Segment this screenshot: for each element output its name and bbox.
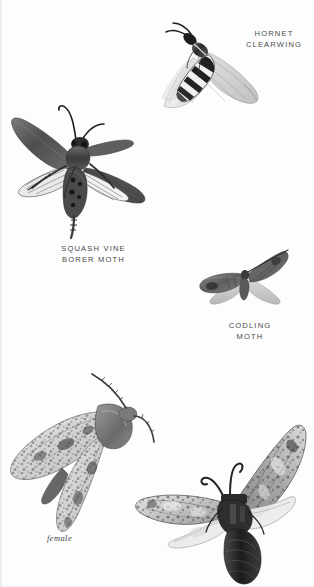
leopard-male-abdomen xyxy=(224,529,261,584)
specimen-squash-vine-borer-moth xyxy=(4,96,156,242)
caption-codling-moth: CODLING MOTH xyxy=(207,321,293,342)
illustration-plate: HORNET CLEARWING xyxy=(0,0,314,587)
svb-thorax xyxy=(66,137,90,170)
svb-abdomen xyxy=(63,167,87,218)
caption-squash-vine-borer-moth: SQUASH VINE BORER MOTH xyxy=(41,244,146,265)
codling-body xyxy=(240,270,249,300)
svb-antennae xyxy=(59,106,104,140)
codling-forewing-right xyxy=(248,252,288,282)
svb-forewing-left xyxy=(12,118,70,170)
svb-tail xyxy=(70,216,77,238)
specimen-leopard-moth-male xyxy=(126,424,314,587)
svb-forewing-upper-right xyxy=(84,140,134,156)
specimen-codling-moth xyxy=(190,248,298,316)
svb-hindwing-left xyxy=(19,168,69,197)
leopard-male-antennae xyxy=(201,464,242,498)
caption-female: female xyxy=(47,533,72,543)
caption-hornet-clearwing: HORNET CLEARWING xyxy=(236,29,312,50)
